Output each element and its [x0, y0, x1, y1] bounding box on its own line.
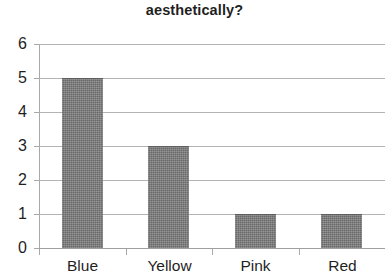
x-axis-label-blue: Blue	[39, 256, 126, 275]
bar-chart: aesthetically? aesthetically? 0123456 Bl…	[0, 0, 389, 279]
bar-red	[321, 214, 362, 248]
plot-area	[39, 44, 385, 248]
x-tick-origin	[39, 249, 40, 255]
y-axis-tick-label: 1	[0, 206, 27, 222]
x-tick-boundary	[299, 249, 300, 255]
bar-blue	[62, 78, 103, 248]
x-axis-label-yellow: Yellow	[126, 256, 213, 275]
x-tick-boundary	[212, 249, 213, 255]
y-axis-tick-label: 0	[0, 240, 27, 256]
y-axis-tick-label: 3	[0, 138, 27, 154]
x-tick-boundary	[126, 249, 127, 255]
y-axis-tick-label: 2	[0, 172, 27, 188]
bar-yellow	[148, 146, 189, 248]
x-axis-label-red: Red	[299, 256, 386, 275]
gridline-6	[39, 44, 385, 45]
y-axis-tick-label: 6	[0, 36, 27, 52]
y-axis-tick-label: 5	[0, 70, 27, 86]
y-axis-tick-label: 4	[0, 104, 27, 120]
chart-title: aesthetically?	[0, 1, 389, 19]
x-axis-label-pink: Pink	[212, 256, 299, 275]
bar-pink	[235, 214, 276, 248]
